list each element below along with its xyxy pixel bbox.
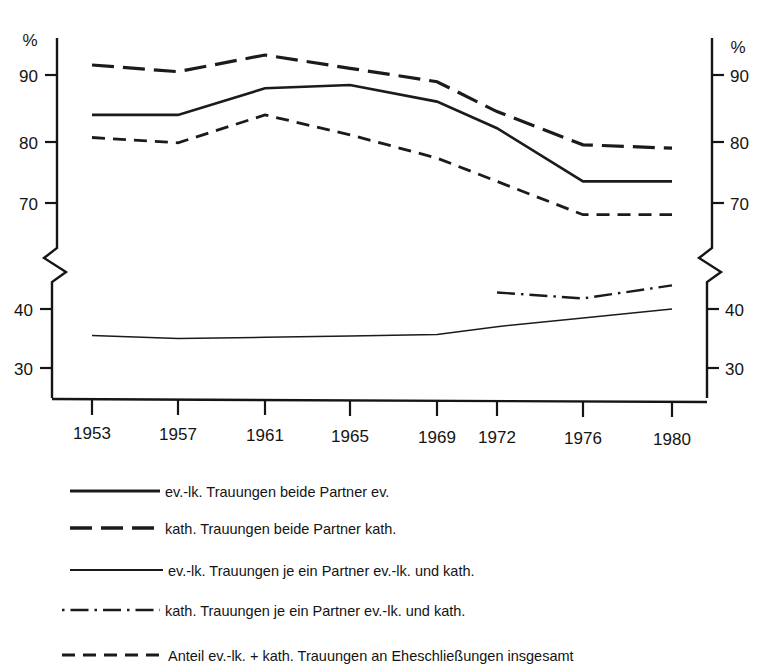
x-axis-line — [52, 399, 707, 402]
left-tick-label-40: 40 — [14, 301, 33, 320]
legend-label-2: ev.-lk. Trauungen je ein Partner ev.-lk.… — [168, 563, 475, 579]
x-axis: 1953 1957 1961 1965 1969 1972 1976 1980 — [52, 399, 707, 449]
legend-item-1: kath. Trauungen beide Partner kath. — [70, 521, 396, 537]
legend-item-2: ev.-lk. Trauungen je ein Partner ev.-lk.… — [70, 563, 475, 579]
right-axis-unit: % — [730, 38, 745, 57]
x-tick-label-1969: 1969 — [418, 428, 456, 447]
x-tick-label-1972: 1972 — [478, 428, 516, 447]
x-axis-labels: 1953 1957 1961 1965 1969 1972 1976 1980 — [73, 424, 691, 449]
legend-item-4: Anteil ev.-lk. + kath. Trauungen an Ehes… — [62, 648, 574, 664]
right-axis: % 90 80 70 40 30 — [699, 38, 749, 398]
legend-label-3: kath. Trauungen je ein Partner ev.-lk. u… — [165, 603, 465, 619]
legend-label-4: Anteil ev.-lk. + kath. Trauungen an Ehes… — [168, 648, 574, 664]
chart-svg: % 90 80 70 40 30 % 90 80 70 40 30 — [0, 0, 763, 672]
left-tick-label-70: 70 — [19, 195, 38, 214]
left-tick-label-80: 80 — [19, 134, 38, 153]
right-tick-label-40: 40 — [725, 301, 744, 320]
right-tick-label-90: 90 — [730, 67, 749, 86]
left-axis-unit: % — [22, 31, 37, 50]
chart-figure: % 90 80 70 40 30 % 90 80 70 40 30 — [0, 0, 763, 672]
right-tick-label-80: 80 — [730, 134, 749, 153]
x-tick-label-1976: 1976 — [564, 429, 602, 448]
series-line-ev-lk-beide-partner-ev — [92, 85, 672, 181]
data-series-group — [92, 55, 672, 339]
series-line-ev-lk-je-ein-partner — [92, 309, 672, 339]
left-axis: % 90 80 70 40 30 — [14, 31, 66, 398]
x-tick-label-1965: 1965 — [331, 427, 369, 446]
series-line-anteil-insgesamt — [92, 115, 672, 215]
right-tick-label-70: 70 — [730, 195, 749, 214]
x-tick-label-1961: 1961 — [246, 426, 284, 445]
legend-item-0: ev.-lk. Trauungen beide Partner ev. — [70, 484, 389, 500]
legend-label-1: kath. Trauungen beide Partner kath. — [165, 521, 396, 537]
left-axis-line — [44, 38, 66, 398]
legend-item-3: kath. Trauungen je ein Partner ev.-lk. u… — [62, 603, 465, 619]
right-tick-label-30: 30 — [725, 360, 744, 379]
x-tick-label-1953: 1953 — [73, 424, 111, 443]
chart-legend: ev.-lk. Trauungen beide Partner ev. kath… — [62, 484, 574, 664]
left-tick-label-30: 30 — [14, 360, 33, 379]
x-tick-label-1957: 1957 — [159, 425, 197, 444]
legend-label-0: ev.-lk. Trauungen beide Partner ev. — [165, 484, 389, 500]
left-tick-label-90: 90 — [19, 67, 38, 86]
x-tick-label-1980: 1980 — [653, 430, 691, 449]
right-axis-line — [699, 38, 721, 398]
series-line-kath-je-ein-partner — [497, 285, 672, 298]
series-line-kath-beide-partner-kath — [92, 55, 672, 148]
